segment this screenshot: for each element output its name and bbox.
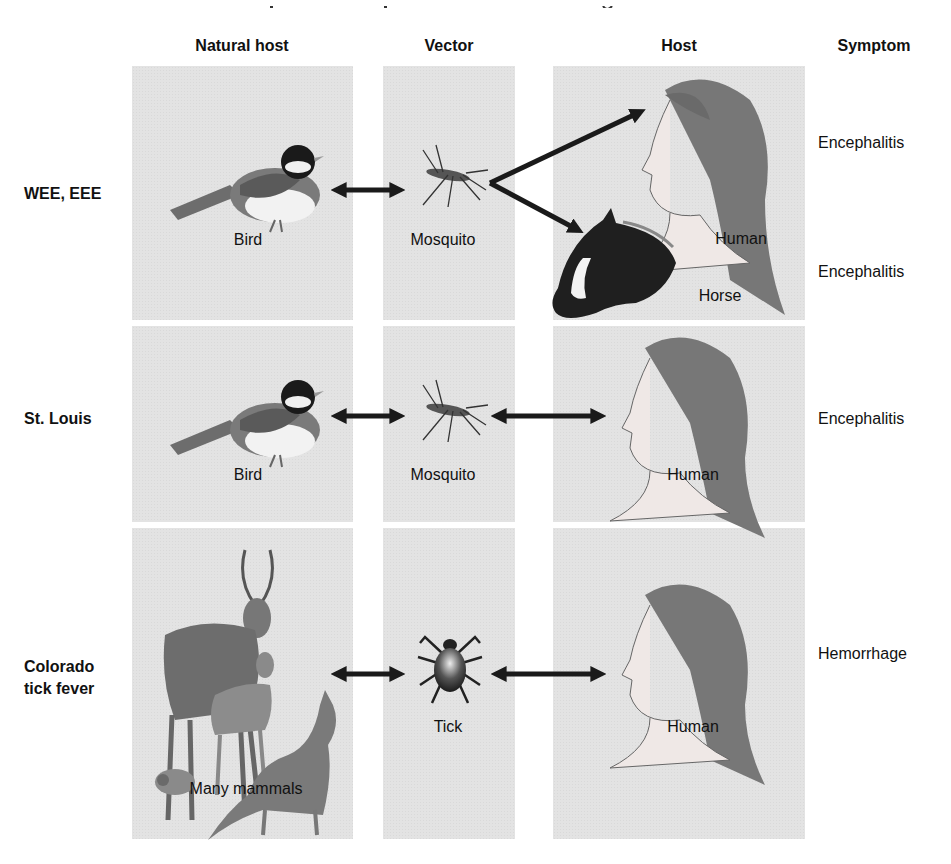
arrow-mosquito-to-horse [490, 183, 578, 230]
symptom-encephalitis: Encephalitis [818, 410, 904, 428]
human-icon [610, 338, 765, 538]
bird-icon [170, 380, 324, 467]
caption-human: Human [667, 466, 719, 484]
symptom-encephalitis: Encephalitis [818, 134, 904, 152]
caption-bird: Bird [234, 466, 262, 484]
caption-horse: Horse [699, 287, 742, 305]
human-icon [610, 585, 765, 785]
caption-tick: Tick [434, 718, 463, 736]
mosquito-icon [423, 145, 488, 207]
mosquito-icon [423, 380, 488, 442]
symptom-hemorrhage: Hemorrhage [818, 645, 907, 663]
bird-icon [170, 145, 324, 232]
symptom-encephalitis: Encephalitis [818, 263, 904, 281]
arrow-mosquito-to-human [490, 112, 640, 183]
caption-many-mammals: Many mammals [190, 780, 303, 798]
arrows [337, 112, 640, 674]
caption-human: Human [667, 718, 719, 736]
caption-bird: Bird [234, 231, 262, 249]
tick-icon [418, 637, 482, 703]
diagram-illustrations [0, 0, 951, 864]
caption-human: Human [715, 230, 767, 248]
caption-mosquito: Mosquito [411, 466, 476, 484]
caption-mosquito: Mosquito [411, 231, 476, 249]
